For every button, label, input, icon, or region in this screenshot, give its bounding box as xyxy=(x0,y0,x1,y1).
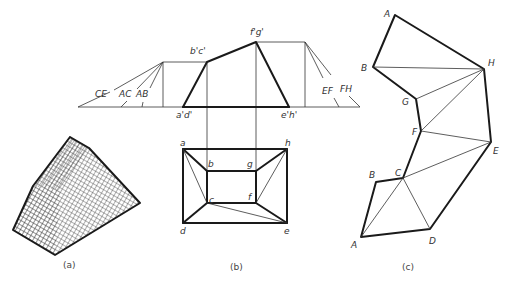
label-CE: CE xyxy=(95,89,107,99)
label-B-bottom: B xyxy=(369,170,375,180)
label-F: F xyxy=(412,127,418,137)
label-a'd': a'd' xyxy=(176,110,192,120)
label-E: E xyxy=(493,146,499,156)
label-c: c xyxy=(209,195,214,205)
label-g: g xyxy=(247,159,253,169)
caption-c: (c) xyxy=(402,262,414,272)
label-AC: AC xyxy=(118,89,132,99)
top-view xyxy=(183,149,287,223)
label-D: D xyxy=(429,236,436,246)
front-view xyxy=(78,42,360,171)
isometric-solid xyxy=(13,137,140,255)
label-b'c': b'c' xyxy=(190,46,206,56)
label-G: G xyxy=(402,97,409,107)
label-EF: EF xyxy=(322,86,334,96)
caption-a: (a) xyxy=(63,260,76,270)
caption-b: (b) xyxy=(230,262,243,272)
label-f: f xyxy=(248,192,253,202)
label-e: e xyxy=(284,226,290,236)
development xyxy=(361,15,491,237)
label-a: a xyxy=(180,138,186,148)
label-e'h': e'h' xyxy=(281,110,297,120)
label-AB: AB xyxy=(135,89,148,99)
label-C: C xyxy=(395,168,402,178)
technical-drawing: (a) CE AC AB b'c' f'g' a'd' e'h' EF FH xyxy=(0,0,505,281)
label-B-top: B xyxy=(361,63,367,73)
label-h: h xyxy=(285,138,291,148)
label-d: d xyxy=(180,226,186,236)
label-FH: FH xyxy=(340,84,352,94)
label-H: H xyxy=(488,58,495,68)
label-f'g': f'g' xyxy=(250,27,264,37)
label-A-top: A xyxy=(383,9,390,19)
label-b: b xyxy=(208,159,214,169)
label-A-bottom: A xyxy=(350,240,357,250)
